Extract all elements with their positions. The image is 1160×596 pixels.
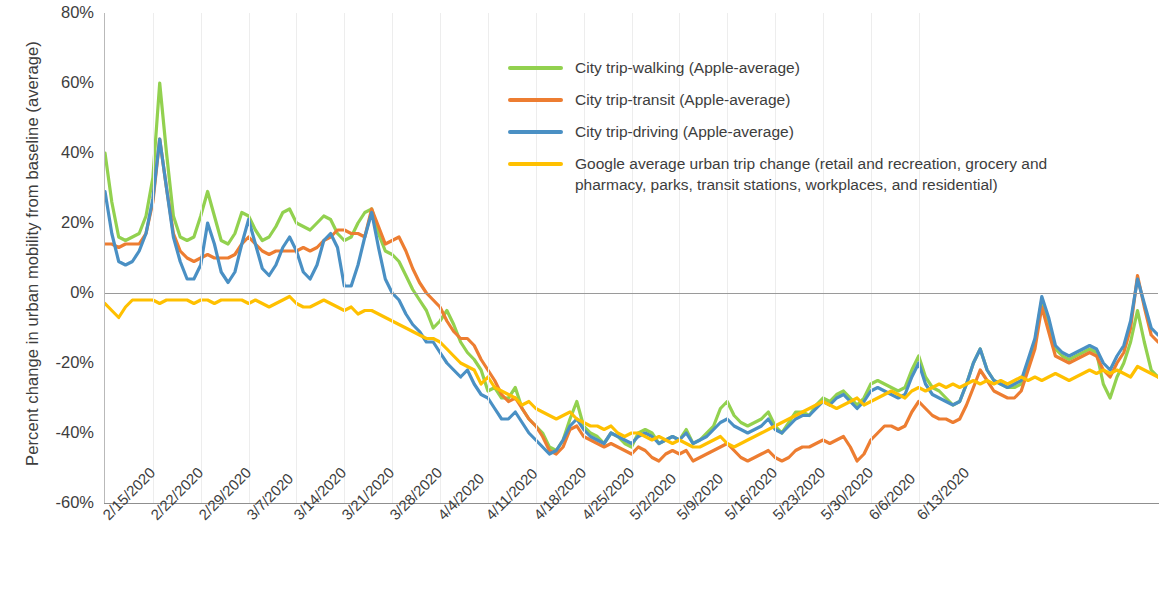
y-tick-label: -20%	[30, 354, 94, 371]
legend-item-label: City trip-transit (Apple-average)	[575, 90, 790, 111]
mobility-line-chart: Percent change in urban mobility from ba…	[0, 0, 1160, 596]
y-tick-label: -40%	[30, 424, 94, 441]
legend-color-swatch-icon	[508, 162, 563, 166]
legend-item-label: Google average urban trip change (retail…	[575, 154, 1108, 196]
chart-legend: City trip-walking (Apple-average)City tr…	[508, 58, 1108, 207]
legend-item[interactable]: Google average urban trip change (retail…	[508, 154, 1108, 196]
y-tick-label: 80%	[30, 4, 94, 21]
y-tick-label: 40%	[30, 144, 94, 161]
legend-item[interactable]: City trip-driving (Apple-average)	[508, 122, 1108, 143]
y-tick-label: 0%	[30, 284, 94, 301]
legend-color-swatch-icon	[508, 98, 563, 102]
legend-item-label: City trip-driving (Apple-average)	[575, 122, 794, 143]
legend-color-swatch-icon	[508, 66, 563, 70]
y-tick-label: 60%	[30, 74, 94, 91]
legend-item[interactable]: City trip-transit (Apple-average)	[508, 90, 1108, 111]
gridline-vertical	[153, 13, 154, 503]
legend-color-swatch-icon	[508, 130, 563, 134]
gridline-vertical	[392, 13, 393, 503]
gridline-vertical	[440, 13, 441, 503]
gridline-vertical	[201, 13, 202, 503]
zero-reference-line	[105, 293, 1158, 294]
legend-item-label: City trip-walking (Apple-average)	[575, 58, 800, 79]
gridline-vertical	[296, 13, 297, 503]
y-tick-label: 20%	[30, 214, 94, 231]
gridline-vertical	[249, 13, 250, 503]
x-axis-tick-labels: 2/15/20202/22/20202/29/20203/7/20203/14/…	[0, 503, 1160, 596]
gridline-vertical	[488, 13, 489, 503]
legend-item[interactable]: City trip-walking (Apple-average)	[508, 58, 1108, 79]
gridline-vertical	[344, 13, 345, 503]
y-axis-tick-labels: 80%60%40%20%0%-20%-40%-60%	[26, 0, 94, 520]
